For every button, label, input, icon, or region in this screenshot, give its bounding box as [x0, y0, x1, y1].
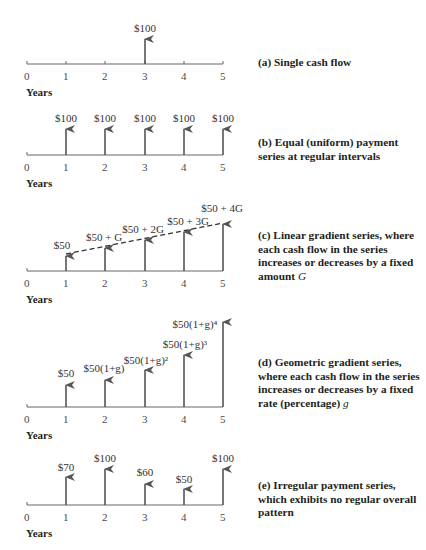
caption-d: (d) Geometric gradient series, where eac… — [258, 356, 426, 410]
svg-text:4: 4 — [181, 161, 187, 173]
svg-text:5: 5 — [220, 511, 226, 523]
svg-text:$50(1+g)³: $50(1+g)³ — [163, 338, 208, 351]
svg-text:$100: $100 — [212, 452, 235, 464]
svg-text:3: 3 — [142, 70, 148, 82]
svg-text:$50(1+g): $50(1+g) — [83, 362, 124, 375]
svg-text:$50: $50 — [176, 473, 193, 485]
cash-flow-labels: $50 $50 + G $50 + 2G $50 + 3G $50 + 4G — [54, 202, 243, 251]
caption-b: (b) Equal (uniform) payment series at re… — [258, 136, 426, 163]
svg-text:3: 3 — [142, 413, 148, 425]
svg-text:4: 4 — [181, 70, 187, 82]
svg-text:$50(1+g)²: $50(1+g)² — [124, 354, 169, 367]
tick-labels: 0 1 2 3 4 5 — [24, 70, 226, 82]
svg-text:0: 0 — [24, 413, 30, 425]
svg-text:$60: $60 — [137, 466, 154, 478]
caption-variable: g — [343, 397, 349, 409]
svg-text:1: 1 — [63, 511, 69, 523]
tick-labels: 0 1 2 3 4 5 — [24, 161, 226, 173]
svg-text:3: 3 — [142, 277, 148, 289]
svg-text:$50: $50 — [58, 367, 75, 379]
years-label: Years — [26, 527, 53, 539]
cash-flow-labels: $50 $50(1+g) $50(1+g)² $50(1+g)³ $50(1+g… — [58, 318, 218, 379]
panel-a-diagram: 0 1 2 3 4 5 Years $100 — [24, 22, 226, 98]
svg-text:0: 0 — [24, 70, 30, 82]
svg-text:4: 4 — [181, 413, 187, 425]
years-label: Years — [26, 177, 53, 189]
svg-text:0: 0 — [24, 277, 30, 289]
svg-text:5: 5 — [220, 413, 226, 425]
panel-d-diagram: 0 1 2 3 4 5 Years $50 $50(1+g) $50(1+g)²… — [24, 318, 226, 441]
svg-text:$100: $100 — [55, 112, 78, 124]
caption-a: (a) Single cash flow — [258, 56, 426, 70]
years-label: Years — [26, 293, 53, 305]
svg-text:$50 + 3G: $50 + 3G — [167, 215, 209, 227]
svg-text:2: 2 — [102, 277, 108, 289]
caption-c: (c) Linear gradient series, where each c… — [258, 229, 426, 283]
svg-text:$50 + 2G: $50 + 2G — [122, 223, 164, 235]
panel-e-diagram: 0 1 2 3 4 5 Years $70 $100 $60 $50 $100 — [24, 452, 235, 539]
svg-text:2: 2 — [102, 413, 108, 425]
svg-text:$100: $100 — [94, 452, 117, 464]
panel-c-diagram: 0 1 2 3 4 5 Years $50 $50 + G $50 + 2G $… — [24, 202, 243, 305]
panel-b-diagram: 0 1 2 3 4 5 Years $100 $100 $100 $100 $1… — [24, 112, 235, 189]
svg-text:$50 + G: $50 + G — [86, 231, 122, 243]
svg-text:2: 2 — [102, 161, 108, 173]
svg-text:3: 3 — [142, 511, 148, 523]
svg-text:$100: $100 — [212, 112, 235, 124]
svg-text:$50(1+g)⁴: $50(1+g)⁴ — [173, 318, 218, 331]
svg-text:$50 + 4G: $50 + 4G — [201, 202, 243, 214]
svg-text:$100: $100 — [94, 112, 117, 124]
caption-e: (e) Irregular payment series, which exhi… — [258, 479, 426, 520]
svg-text:1: 1 — [63, 161, 69, 173]
svg-text:5: 5 — [220, 70, 226, 82]
tick-labels: 0 1 2 3 4 5 — [24, 277, 226, 289]
svg-text:$100: $100 — [134, 112, 157, 124]
tick-labels: 0 1 2 3 4 5 — [24, 413, 226, 425]
svg-text:4: 4 — [181, 277, 187, 289]
svg-text:1: 1 — [63, 277, 69, 289]
svg-text:2: 2 — [102, 70, 108, 82]
svg-text:5: 5 — [220, 161, 226, 173]
svg-text:4: 4 — [181, 511, 187, 523]
svg-text:$70: $70 — [58, 461, 75, 473]
svg-text:0: 0 — [24, 511, 30, 523]
cash-flow-labels: $70 $100 $60 $50 $100 — [58, 452, 235, 485]
svg-text:$100: $100 — [173, 112, 196, 124]
tick-labels: 0 1 2 3 4 5 — [24, 511, 226, 523]
svg-text:0: 0 — [24, 161, 30, 173]
svg-text:5: 5 — [220, 277, 226, 289]
cash-flow-arrows — [66, 129, 223, 155]
caption-variable: G — [298, 270, 306, 282]
svg-text:1: 1 — [63, 70, 69, 82]
svg-text:2: 2 — [102, 511, 108, 523]
years-label: Years — [26, 86, 53, 98]
svg-text:1: 1 — [63, 413, 69, 425]
cash-flow-label: $100 — [134, 22, 157, 34]
cash-flow-labels: $100 $100 $100 $100 $100 — [55, 112, 235, 124]
svg-text:$50: $50 — [54, 239, 71, 251]
years-label: Years — [26, 429, 53, 441]
svg-text:3: 3 — [142, 161, 148, 173]
